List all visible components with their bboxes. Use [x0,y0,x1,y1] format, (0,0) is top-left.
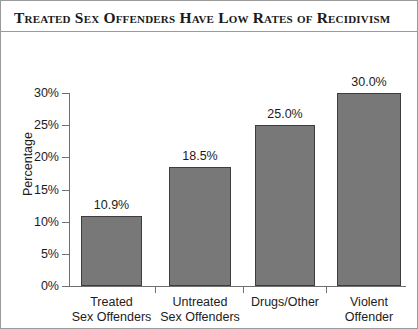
bar-value-label: 30.0% [351,75,386,89]
y-axis-tick [62,157,70,158]
bar [81,216,142,286]
x-axis-category-label: Treated Sex Offenders [72,295,152,325]
y-axis-tick [62,254,70,255]
chart-figure: Treated Sex Offenders Have Low Rates of … [0,0,418,329]
x-axis-line [69,286,406,287]
x-axis-category-label: Violent Offender [345,295,393,325]
x-axis-tick [243,287,244,293]
y-axis-tick-label: 15% [15,183,59,197]
x-axis-tick [155,287,156,293]
x-axis-category-label: Drugs/Other [251,295,319,310]
bar [255,125,315,286]
bar [169,167,231,286]
y-axis-tick-label: 25% [15,118,59,132]
y-axis-tick [62,286,70,287]
bar [337,93,401,286]
bar-value-label: 25.0% [267,107,302,121]
y-axis-tick-label: 10% [15,215,59,229]
y-axis-tick [62,125,70,126]
bar-value-label: 10.9% [94,198,129,212]
y-axis-tick-label: 5% [15,247,59,261]
y-axis-tick [62,93,70,94]
y-axis-tick [62,190,70,191]
y-axis-tick-label: 0% [15,279,59,293]
plot-area: Percentage 0%5%10%15%20%25%30% 10.9%18.5… [1,32,418,329]
title-bar: Treated Sex Offenders Have Low Rates of … [1,1,417,32]
y-axis-tick [62,222,70,223]
x-axis-tick [326,287,327,293]
page-title: Treated Sex Offenders Have Low Rates of … [14,9,390,27]
x-axis-category-label: Untreated Sex Offenders [160,295,240,325]
y-axis-tick-label: 30% [15,86,59,100]
y-axis-tick-label: 20% [15,150,59,164]
bar-value-label: 18.5% [182,149,217,163]
